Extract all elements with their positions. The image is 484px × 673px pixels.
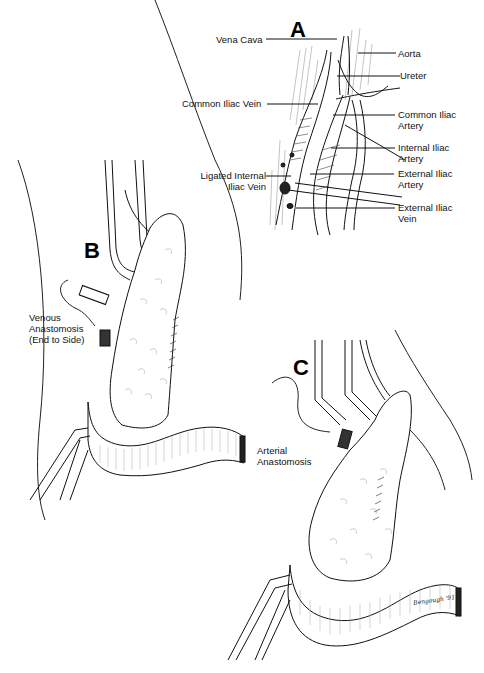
- label-ligated-internal-iliac-vein-line2: Iliac Vein: [194, 181, 266, 192]
- label-common-iliac-artery-line1: Common Iliac: [398, 109, 456, 120]
- panel-a-drawing: [266, 28, 405, 235]
- panel-letter-c: C: [293, 357, 309, 379]
- label-ureter: Ureter: [400, 70, 426, 81]
- label-venous-anastomosis-line1: Venous: [29, 312, 61, 323]
- panel-letter-b: B: [84, 240, 100, 262]
- label-external-iliac-vein-line2: Vein: [398, 213, 417, 224]
- leader-external-iliac-vein-0: [288, 190, 400, 205]
- label-arterial-anastomosis-line2: Anastomosis: [257, 456, 311, 467]
- label-common-iliac-artery-line2: Artery: [398, 120, 423, 131]
- label-arterial-anastomosis-line1: Arterial: [257, 445, 287, 456]
- label-ligated-internal-iliac-vein-line1: Ligated Internal: [194, 170, 266, 181]
- leader-external-iliac-artery-2: [295, 183, 402, 197]
- label-internal-iliac-artery-line2: Artery: [398, 153, 423, 164]
- label-aorta: Aorta: [398, 48, 421, 59]
- label-external-iliac-artery-line2: Artery: [398, 179, 423, 190]
- label-internal-iliac-artery-line1: Internal Iliac: [398, 142, 449, 153]
- label-venous-anastomosis-line3: (End to Side): [29, 334, 84, 345]
- label-external-iliac-vein-line1: External Iliac: [398, 202, 452, 213]
- label-external-iliac-artery-line1: External Iliac: [398, 168, 452, 179]
- label-venous-anastomosis-line2: Anastomosis: [29, 323, 83, 334]
- leader-internal-iliac-2: [345, 125, 405, 160]
- label-vena-cava: Vena Cava: [216, 34, 262, 45]
- label-common-iliac-vein: Common Iliac Vein: [182, 98, 261, 109]
- panel-letter-a: A: [290, 19, 306, 41]
- panel-c-drawing: [228, 330, 472, 660]
